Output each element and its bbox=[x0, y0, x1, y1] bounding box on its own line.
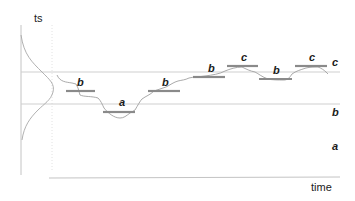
time-series-segmentation-diagram bbox=[0, 0, 355, 201]
level-label-a: a bbox=[332, 140, 338, 152]
time-axis bbox=[49, 177, 340, 178]
segment-label: b bbox=[273, 64, 280, 76]
segment-label: c bbox=[241, 51, 247, 63]
level-label-b: b bbox=[332, 106, 339, 118]
segment-label: b bbox=[208, 62, 215, 74]
segment-label: b bbox=[77, 76, 84, 88]
segment-label: b bbox=[162, 76, 169, 88]
segment-bars bbox=[66, 66, 327, 112]
y-axis-label: ts bbox=[34, 12, 43, 24]
x-axis-label: time bbox=[311, 181, 332, 193]
segment-label: c bbox=[309, 51, 315, 63]
level-label-c: c bbox=[332, 56, 338, 68]
time-series-line bbox=[57, 67, 328, 118]
segment-label: a bbox=[119, 96, 125, 108]
distribution-curve bbox=[21, 35, 53, 140]
